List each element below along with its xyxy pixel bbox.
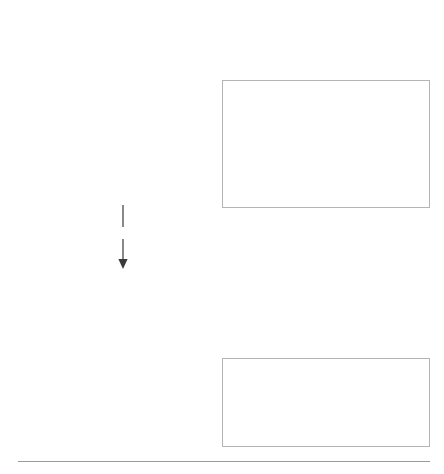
figure-canvas — [0, 0, 444, 474]
operating-budget-pie-chart — [25, 22, 215, 214]
clipped-top-title-strip — [0, 0, 444, 10]
connector-arrow-icon — [116, 205, 130, 271]
operating-budget-legend — [222, 80, 430, 208]
bottom-divider — [18, 461, 430, 462]
operating-budget-legend-list — [223, 81, 429, 207]
tax-administration-legend-list — [223, 359, 429, 446]
operating-budget-pie-svg — [25, 22, 215, 214]
tax-administration-pie-chart — [31, 265, 213, 449]
tax-administration-pie-svg — [31, 265, 213, 449]
tax-administration-legend — [222, 358, 430, 447]
